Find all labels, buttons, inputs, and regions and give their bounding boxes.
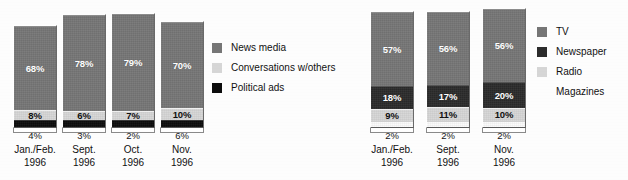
- below-bar-value: 3%: [62, 130, 106, 141]
- category-label-line2: 1996: [151, 156, 213, 169]
- right-chart-legend: TVNewspaperRadioMagazines: [537, 22, 607, 102]
- left-chart-legend: News mediaConversations w/othersPolitica…: [212, 38, 336, 98]
- legend-swatch-icon: [212, 83, 222, 93]
- left-stacked-bar-chart: 68%8%4%Jan./Feb.199678%6%3%Sept.199679%7…: [0, 0, 210, 180]
- below-bar-value: 6%: [160, 130, 204, 141]
- bar-segment-radio: 10%: [483, 108, 525, 121]
- legend-label: News media: [231, 42, 286, 54]
- stacked-bar: 68%8%: [13, 25, 57, 128]
- bar-segment-newspaper: 20%: [483, 82, 525, 108]
- category-label: Sept.1996: [417, 143, 479, 169]
- bar-segment-conversations-w-others: 7%: [112, 111, 154, 120]
- bar-segment-radio: 9%: [371, 109, 413, 121]
- segment-value-label: 57%: [383, 45, 401, 55]
- bar-segment-political-ads: [14, 120, 56, 128]
- category-label: Jan./Feb.1996: [361, 143, 423, 169]
- legend-label: Political ads: [231, 82, 284, 94]
- bar-segment-news-media: 68%: [14, 26, 56, 110]
- stacked-bar: 70%10%: [160, 21, 204, 128]
- below-bar-value: 2%: [426, 130, 470, 141]
- legend-label: Magazines: [556, 86, 604, 98]
- category-label-line2: 1996: [417, 156, 479, 169]
- segment-value-label: 70%: [173, 61, 191, 71]
- legend-swatch-icon: [537, 27, 547, 37]
- bar-segment-radio: 11%: [427, 107, 469, 121]
- below-bar-value: 2%: [111, 130, 155, 141]
- bar-segment-news-media: 70%: [161, 22, 203, 108]
- legend-swatch-icon: [212, 63, 222, 73]
- stacked-bar: 79%7%: [111, 13, 155, 128]
- bar-segment-magazines: [483, 121, 525, 128]
- legend-label: Radio: [556, 66, 582, 78]
- bar-segment-magazines: [371, 121, 413, 128]
- bar-segment-conversations-w-others: 10%: [161, 108, 203, 120]
- chart-page: 68%8%4%Jan./Feb.199678%6%3%Sept.199679%7…: [0, 0, 628, 180]
- legend-label: TV: [556, 26, 569, 38]
- segment-value-label: 7%: [126, 111, 139, 121]
- legend-item[interactable]: Newspaper: [537, 42, 607, 62]
- stacked-bar: 78%6%: [62, 14, 106, 128]
- bar-segment-news-media: 79%: [112, 14, 154, 111]
- left-chart-bars: 68%8%4%Jan./Feb.199678%6%3%Sept.199679%7…: [0, 0, 210, 180]
- segment-value-label: 20%: [495, 91, 513, 101]
- bar-segment-conversations-w-others: 8%: [14, 110, 56, 120]
- bar-segment-conversations-w-others: 6%: [63, 111, 105, 120]
- segment-value-label: 8%: [28, 111, 41, 121]
- bar-segment-magazines: [427, 121, 469, 128]
- category-label-line2: 1996: [473, 156, 535, 169]
- legend-item[interactable]: News media: [212, 38, 336, 58]
- legend-item[interactable]: Political ads: [212, 78, 336, 98]
- legend-swatch-icon: [212, 43, 222, 53]
- bar-segment-newspaper: 17%: [427, 85, 469, 107]
- category-label: Nov.1996: [473, 143, 535, 169]
- legend-item[interactable]: Conversations w/others: [212, 58, 336, 78]
- legend-swatch-icon: [537, 67, 547, 77]
- bar-segment-political-ads: [63, 120, 105, 128]
- below-bar-value: 4%: [13, 130, 57, 141]
- segment-value-label: 6%: [77, 111, 90, 121]
- segment-value-label: 10%: [495, 110, 513, 120]
- segment-value-label: 17%: [439, 92, 457, 102]
- segment-value-label: 56%: [439, 44, 457, 54]
- legend-item[interactable]: TV: [537, 22, 607, 42]
- bar-segment-political-ads: [161, 120, 203, 128]
- bar-segment-tv: 56%: [427, 12, 469, 85]
- legend-label: Conversations w/others: [231, 62, 336, 74]
- segment-value-label: 79%: [124, 58, 142, 68]
- right-chart-bars: 57%18%9%2%Jan./Feb.199656%17%11%2%Sept.1…: [360, 0, 525, 180]
- segment-value-label: 11%: [439, 110, 457, 120]
- segment-value-label: 78%: [75, 59, 93, 69]
- bar-segment-tv: 56%: [483, 9, 525, 82]
- category-label: Nov.1996: [151, 143, 213, 169]
- bar-segment-newspaper: 18%: [371, 86, 413, 109]
- legend-label: Newspaper: [556, 46, 607, 58]
- category-label-line1: Nov.: [473, 143, 535, 156]
- category-label-line1: Jan./Feb.: [361, 143, 423, 156]
- bar-segment-news-media: 78%: [63, 15, 105, 111]
- below-bar-value: 2%: [370, 130, 414, 141]
- right-stacked-bar-chart: 57%18%9%2%Jan./Feb.199656%17%11%2%Sept.1…: [360, 0, 525, 180]
- category-label-line1: Nov.: [151, 143, 213, 156]
- segment-value-label: 56%: [495, 41, 513, 51]
- category-label-line1: Sept.: [417, 143, 479, 156]
- segment-value-label: 10%: [173, 110, 191, 120]
- below-bar-value: 2%: [482, 130, 526, 141]
- category-label-line2: 1996: [361, 156, 423, 169]
- stacked-bar: 56%20%10%: [482, 8, 526, 128]
- segment-value-label: 68%: [26, 64, 44, 74]
- stacked-bar: 57%18%9%: [370, 11, 414, 128]
- legend-item[interactable]: Radio: [537, 62, 607, 82]
- bar-segment-political-ads: [112, 120, 154, 128]
- segment-value-label: 9%: [385, 111, 398, 121]
- legend-item[interactable]: Magazines: [537, 82, 607, 102]
- segment-value-label: 18%: [383, 93, 401, 103]
- stacked-bar: 56%17%11%: [426, 11, 470, 128]
- bar-segment-tv: 57%: [371, 12, 413, 86]
- legend-swatch-icon: [537, 47, 547, 57]
- legend-swatch-icon: [537, 87, 547, 97]
